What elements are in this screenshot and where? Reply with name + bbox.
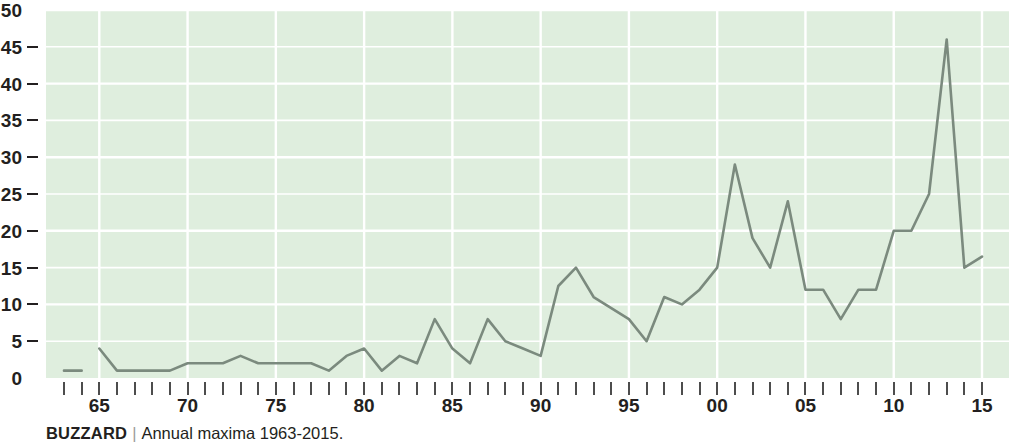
caption-description: Annual maxima 1963-2015. (141, 424, 343, 442)
y-tick-label: 10 (1, 295, 22, 314)
caption-separator: | (132, 424, 136, 442)
x-tick (451, 382, 453, 395)
x-tick (893, 382, 895, 395)
x-tick (310, 382, 312, 395)
x-tick (487, 382, 489, 395)
x-tick (822, 382, 824, 395)
x-tick (222, 382, 224, 395)
y-tick-dash (27, 193, 38, 195)
x-tick (98, 382, 100, 395)
x-tick (981, 382, 983, 395)
x-tick (257, 382, 259, 395)
y-tick-label: 20 (1, 221, 22, 240)
x-tick (187, 382, 189, 395)
x-tick (769, 382, 771, 395)
data-series-group (64, 39, 982, 370)
x-tick (610, 382, 612, 395)
y-tick-label: 0 (11, 369, 22, 388)
x-tick (204, 382, 206, 395)
x-tick-label: 80 (354, 396, 375, 415)
y-tick-dash (27, 303, 38, 305)
x-tick (116, 382, 118, 395)
x-tick (928, 382, 930, 395)
x-tick (398, 382, 400, 395)
x-tick (416, 382, 418, 395)
x-tick-label: 65 (89, 396, 110, 415)
x-tick (240, 382, 242, 395)
x-tick (734, 382, 736, 395)
x-tick (328, 382, 330, 395)
x-tick (857, 382, 859, 395)
y-tick-label: 50 (1, 1, 22, 20)
x-tick (540, 382, 542, 395)
x-tick (787, 382, 789, 395)
y-tick-dash (27, 340, 38, 342)
x-tick (381, 382, 383, 395)
x-tick (593, 382, 595, 395)
x-tick (363, 382, 365, 395)
y-tick-dash (27, 267, 38, 269)
y-tick-dash (27, 46, 38, 48)
x-tick (752, 382, 754, 395)
y-tick-label: 15 (1, 258, 22, 277)
x-tick (134, 382, 136, 395)
x-tick (946, 382, 948, 395)
x-tick (522, 382, 524, 395)
y-tick-label: 35 (1, 111, 22, 130)
x-tick-label: 85 (442, 396, 463, 415)
x-tick (840, 382, 842, 395)
x-tick (699, 382, 701, 395)
x-tick (63, 382, 65, 395)
x-tick (169, 382, 171, 395)
buzzard-line-chart: 05101520253035404550 6570758085909500051… (0, 0, 1014, 444)
x-tick (716, 382, 718, 395)
x-tick-label: 70 (177, 396, 198, 415)
x-tick-label: 10 (883, 396, 904, 415)
x-tick (557, 382, 559, 395)
y-tick-label: 5 (11, 332, 22, 351)
x-tick (646, 382, 648, 395)
y-tick-dash (27, 230, 38, 232)
x-tick-label: 75 (265, 396, 286, 415)
plot-svg (46, 10, 1009, 378)
y-tick-dash (27, 83, 38, 85)
x-tick (804, 382, 806, 395)
x-tick-label: 15 (971, 396, 992, 415)
x-tick (910, 382, 912, 395)
caption: BUZZARD|Annual maxima 1963-2015. (46, 424, 343, 443)
x-tick (293, 382, 295, 395)
x-tick (663, 382, 665, 395)
caption-species: BUZZARD (46, 424, 127, 442)
y-tick-label: 30 (1, 148, 22, 167)
x-tick (575, 382, 577, 395)
x-tick (275, 382, 277, 395)
y-tick-dash (27, 119, 38, 121)
gridlines (46, 10, 1009, 378)
x-tick (469, 382, 471, 395)
x-tick (963, 382, 965, 395)
x-tick-label: 95 (618, 396, 639, 415)
x-tick (345, 382, 347, 395)
x-tick (681, 382, 683, 395)
x-tick (628, 382, 630, 395)
plot-area (46, 10, 1009, 378)
x-axis: 6570758085909500051015 (46, 378, 1009, 408)
y-tick-dash (27, 156, 38, 158)
x-tick (151, 382, 153, 395)
y-tick-label: 45 (1, 37, 22, 56)
x-tick-label: 05 (795, 396, 816, 415)
x-tick-label: 90 (530, 396, 551, 415)
x-tick (81, 382, 83, 395)
y-tick-label: 40 (1, 74, 22, 93)
y-tick-label: 25 (1, 185, 22, 204)
y-axis: 05101520253035404550 (0, 0, 46, 390)
x-tick (434, 382, 436, 395)
x-tick (504, 382, 506, 395)
x-tick-label: 00 (707, 396, 728, 415)
x-tick (875, 382, 877, 395)
